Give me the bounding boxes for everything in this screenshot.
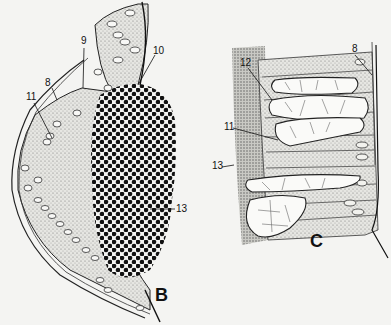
callout-13-c: 13: [212, 161, 223, 171]
panel-label-b: B: [155, 286, 168, 304]
callout-11-c: 11: [224, 122, 234, 132]
callout-11-b: 11: [26, 92, 36, 102]
panel-c-drawing: [222, 42, 388, 258]
callout-13-b: 13: [176, 204, 187, 214]
callout-8-c: 8: [352, 44, 358, 54]
panel-label-c: C: [310, 232, 323, 250]
histology-illustration: [0, 0, 391, 325]
callout-10-b: 10: [153, 46, 164, 56]
callout-8-b: 8: [45, 78, 51, 88]
callout-12-c: 12: [240, 58, 251, 68]
panel-b-drawing: [12, 2, 176, 322]
callout-9-b: 9: [81, 36, 87, 46]
